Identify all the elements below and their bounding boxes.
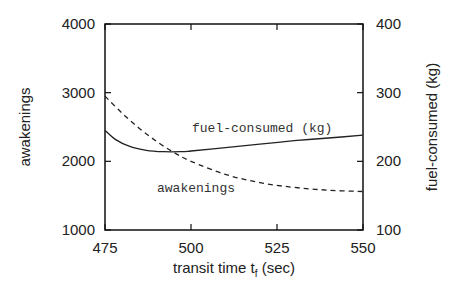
x-axis-title: transit time tf (sec) [173, 259, 295, 279]
dual-axis-line-chart: 4755005255501000200030004000100200300400… [0, 0, 460, 289]
y-axis-right-title: fuel-consumed (kg) [423, 63, 440, 191]
fuel-curve-label: fuel-consumed (kg) [192, 121, 332, 136]
x-tick-label: 550 [350, 239, 375, 256]
y-left-tick-label: 4000 [62, 15, 95, 32]
y-left-tick-label: 3000 [62, 84, 95, 101]
x-tick-label: 475 [92, 239, 117, 256]
y-left-tick-label: 1000 [62, 221, 95, 238]
y-right-tick-label: 300 [376, 84, 401, 101]
y-right-tick-label: 200 [376, 152, 401, 169]
x-tick-label: 525 [264, 239, 289, 256]
y-axis-left-title: awakenings [16, 87, 33, 166]
awakenings-curve-label: awakenings [157, 181, 235, 196]
x-tick-label: 500 [178, 239, 203, 256]
y-right-tick-label: 100 [376, 221, 401, 238]
y-right-tick-label: 400 [376, 15, 401, 32]
y-left-tick-label: 2000 [62, 152, 95, 169]
